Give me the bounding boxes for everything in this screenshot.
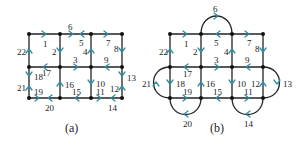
panel-a: 1 2 3 4 5 6 7 8 9 10 11 12 13 14 15 16 1…: [17, 22, 137, 135]
edge-label: 7: [106, 38, 111, 48]
panel-a-caption: (a): [65, 121, 78, 135]
edge-label: 17: [183, 69, 193, 79]
edge-label: 3: [214, 55, 219, 65]
edge-label: 21: [142, 79, 151, 89]
edge-label: 9: [245, 55, 250, 65]
edge-label: 11: [96, 87, 105, 97]
edge-label: 4: [224, 47, 229, 57]
panel-b-caption: (b): [210, 121, 224, 135]
edge-label: 9: [104, 55, 109, 65]
loop-edge-6: [201, 16, 232, 34]
edge-label: 14: [244, 119, 254, 129]
edge-label: 2: [193, 47, 198, 57]
edge-label: 16: [206, 79, 216, 89]
edge-label: 8: [255, 44, 260, 54]
loop-edge-14: [232, 98, 263, 115]
edge-label: 6: [213, 4, 218, 14]
edge-label: 2: [52, 47, 57, 57]
edge-label: 20: [183, 119, 193, 129]
loop-edge-20: [170, 98, 201, 115]
edge-label: 13: [283, 79, 293, 89]
edge-label: 12: [110, 84, 119, 94]
edge-label: 7: [247, 38, 252, 48]
edge-label: 5: [214, 38, 219, 48]
panel-b: 1 2 3 4 5 6 7 8 9 10 11 12 13 14 15 16 1…: [142, 4, 293, 135]
grid-graph-figure: 1 2 3 4 5 6 7 8 9 10 11 12 13 14 15 16 1…: [0, 0, 303, 144]
edge-label: 14: [108, 103, 118, 113]
edge-label: 4: [83, 47, 88, 57]
loop-edge-13: [263, 67, 280, 98]
edge-label: 19: [34, 87, 44, 97]
edge-label: 18: [34, 72, 44, 82]
edge-label: 12: [251, 79, 260, 89]
edge-label: 13: [127, 73, 137, 83]
edge-label: 5: [79, 38, 84, 48]
edge-label: 19: [183, 87, 193, 97]
edge-label: 6: [68, 22, 73, 32]
edge-label: 20: [45, 103, 55, 113]
edge-label: 16: [65, 80, 75, 90]
edge-label: 17: [42, 68, 52, 78]
edge-label: 8: [114, 44, 119, 54]
edge-label: 1: [184, 39, 189, 49]
edge-label: 22: [17, 47, 26, 57]
edge-label: 3: [73, 55, 78, 65]
edge-label: 22: [159, 47, 168, 57]
panel-b-arrows: [153, 13, 280, 117]
edge-label: 21: [17, 83, 26, 93]
edge-label: 1: [43, 39, 48, 49]
